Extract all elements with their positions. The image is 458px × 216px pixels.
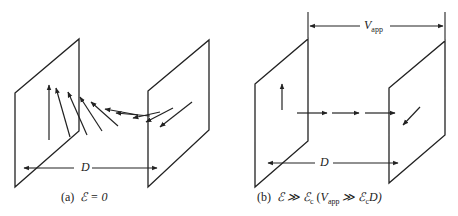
spin-arrows-b — [282, 84, 420, 125]
caption-a-prefix: (a) — [61, 190, 74, 204]
caption-b-math-2: ≫ ℰ — [342, 190, 365, 204]
diagram-canvas — [0, 0, 458, 216]
panel-a — [15, 39, 209, 187]
left-plate-a — [15, 39, 79, 187]
caption-b-d: D) — [369, 190, 382, 204]
caption-a: (a) ℰ = 0 — [61, 190, 107, 205]
distance-label-b: D — [318, 155, 331, 170]
caption-b-v: V — [321, 190, 328, 204]
panel-b — [255, 12, 445, 187]
voltage-label: Vapp — [362, 18, 385, 34]
caption-b-prefix: (b) — [257, 190, 271, 204]
caption-b-sub-app: app — [328, 197, 340, 206]
distance-label-a: D — [79, 160, 92, 175]
voltage-subscript: app — [371, 25, 383, 34]
right-plate-a — [148, 40, 209, 187]
caption-a-math: ℰ = 0 — [80, 190, 107, 204]
caption-b: (b) ℰ ≫ ℰc (Vapp ≫ ℰcD) — [257, 190, 382, 206]
caption-b-sub-c1: c — [310, 197, 314, 206]
caption-b-math-1: ℰ ≫ ℰ — [277, 190, 310, 204]
right-plate-b — [389, 41, 445, 183]
spin-arrows-a — [49, 85, 192, 140]
